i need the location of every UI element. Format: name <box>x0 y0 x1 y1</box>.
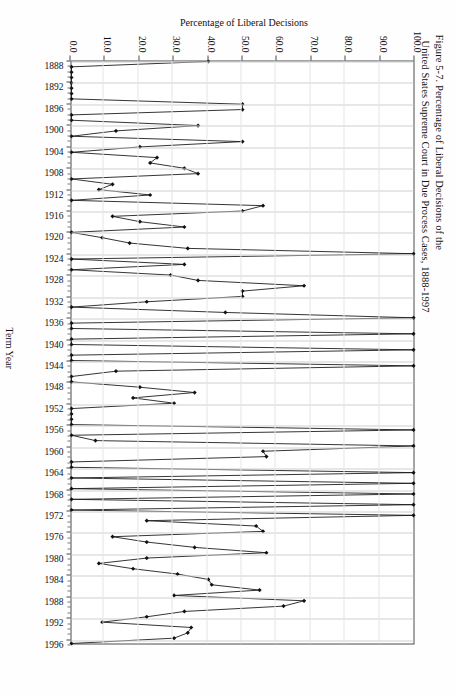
x-axis-tick-mark <box>66 489 70 490</box>
x-axis-tick-mark <box>68 558 71 559</box>
series-polyline <box>71 61 413 643</box>
x-axis-tick-mark <box>68 644 71 645</box>
x-axis-tick-mark <box>66 639 70 640</box>
x-axis-tick-mark <box>68 564 71 565</box>
x-axis-tick-label: 1908 <box>44 167 63 177</box>
y-axis-tick-mark <box>310 55 311 60</box>
gridline-vertical <box>71 104 413 105</box>
x-axis-tick-label: 1976 <box>44 531 63 541</box>
x-axis-tick-mark <box>68 478 71 479</box>
data-point-marker <box>113 128 117 132</box>
x-axis-tick-mark <box>66 446 70 447</box>
x-axis-tick-mark <box>66 596 70 597</box>
x-axis-tick-mark <box>68 285 71 286</box>
y-axis-tick-label: 90.0 <box>377 0 387 52</box>
gridline-horizontal <box>309 61 310 643</box>
x-axis-tick-mark <box>68 419 71 420</box>
gridline-vertical <box>71 232 413 233</box>
data-point-marker <box>113 369 117 373</box>
x-axis-tick-mark <box>68 537 71 538</box>
x-axis-tick-mark <box>68 569 71 570</box>
x-axis-tick-mark <box>68 312 71 313</box>
gridline-vertical <box>71 82 413 83</box>
figure-page: Figure 5-7. Percentage of Liberal Decisi… <box>0 0 455 696</box>
x-axis-tick-mark <box>68 119 71 120</box>
x-axis-tick-mark <box>66 81 70 82</box>
y-axis-tick-mark <box>103 55 104 60</box>
x-axis-tick-mark <box>68 376 71 377</box>
x-axis-tick-mark <box>66 403 70 404</box>
x-axis-tick-mark <box>68 440 71 441</box>
x-axis-tick-mark <box>66 467 70 468</box>
data-point-marker <box>148 160 152 164</box>
gridline-vertical <box>71 61 413 62</box>
x-axis-tick-mark <box>68 505 71 506</box>
gridline-vertical <box>71 511 413 512</box>
x-axis-tick-mark <box>68 71 71 72</box>
data-point-marker <box>182 609 186 613</box>
x-axis-tick-mark <box>68 387 71 388</box>
gridline-horizontal <box>343 61 344 643</box>
x-axis-tick-mark <box>68 178 71 179</box>
y-axis-tick-mark <box>207 55 208 60</box>
x-axis-tick-mark <box>66 553 70 554</box>
y-axis-tick-mark <box>344 55 345 60</box>
x-axis-tick-mark <box>68 108 71 109</box>
gridline-vertical <box>71 404 413 405</box>
x-axis-title: Term Year <box>3 327 14 369</box>
x-axis-tick-mark <box>68 473 71 474</box>
x-axis-tick-label: 1932 <box>44 296 63 306</box>
x-axis-tick-label: 1928 <box>44 274 63 284</box>
x-axis-tick-mark <box>66 124 70 125</box>
x-axis-tick-mark <box>68 269 71 270</box>
x-axis-tick-label: 1920 <box>44 231 63 241</box>
x-axis-tick-mark <box>68 333 71 334</box>
x-axis-tick-label: 1912 <box>44 189 63 199</box>
x-axis-tick-mark <box>68 601 71 602</box>
x-axis-tick-label: 1944 <box>44 360 63 370</box>
x-axis-tick-label: 1904 <box>44 146 63 156</box>
x-axis-tick-mark <box>68 623 71 624</box>
x-axis-tick-label: 1888 <box>44 60 63 70</box>
y-axis-tick-mark <box>69 55 70 60</box>
x-axis-tick-mark <box>66 510 70 511</box>
x-axis-tick-mark <box>68 306 71 307</box>
x-axis-tick-label: 1900 <box>44 124 63 134</box>
y-axis-tick-mark <box>275 55 276 60</box>
gridline-vertical <box>71 575 413 576</box>
x-axis-tick-mark <box>68 435 71 436</box>
x-axis-tick-mark <box>68 456 71 457</box>
x-axis-tick-label: 1984 <box>44 574 63 584</box>
y-axis-tick-label: 0.0 <box>67 0 77 52</box>
x-axis-tick-mark <box>68 92 71 93</box>
x-axis-tick-label: 1992 <box>44 617 63 627</box>
data-point-marker <box>281 604 285 608</box>
x-axis-tick-label: 1980 <box>44 553 63 563</box>
x-axis-tick-mark <box>68 483 71 484</box>
x-axis-tick-label: 1988 <box>44 596 63 606</box>
gridline-horizontal <box>206 61 207 643</box>
caption-line-2: United States Supreme Court in Due Proce… <box>417 34 431 454</box>
x-axis-tick-mark <box>66 253 70 254</box>
plot-area <box>70 60 414 644</box>
y-axis-tick-mark <box>413 55 414 60</box>
x-axis-tick-mark <box>68 430 71 431</box>
x-axis-tick-mark <box>68 521 71 522</box>
y-axis-title: Percentage of Liberal Decisions <box>164 17 324 28</box>
x-axis-tick-label: 1996 <box>44 639 63 649</box>
x-axis-tick-mark <box>68 408 71 409</box>
gridline-vertical <box>71 168 413 169</box>
x-axis-tick-mark <box>66 231 70 232</box>
x-axis-tick-mark <box>68 258 71 259</box>
x-axis-tick-label: 1968 <box>44 489 63 499</box>
x-axis-tick-label: 1916 <box>44 210 63 220</box>
x-axis-tick-mark <box>66 381 70 382</box>
caption-line-1: Figure 5-7. Percentage of Liberal Decisi… <box>431 34 445 454</box>
data-point-marker <box>260 449 264 453</box>
data-point-marker <box>144 518 148 522</box>
x-axis-tick-mark <box>68 173 71 174</box>
gridline-vertical <box>71 275 413 276</box>
x-axis-tick-mark <box>68 140 71 141</box>
data-point-marker <box>96 561 100 565</box>
x-axis-tick-label: 1960 <box>44 446 63 456</box>
